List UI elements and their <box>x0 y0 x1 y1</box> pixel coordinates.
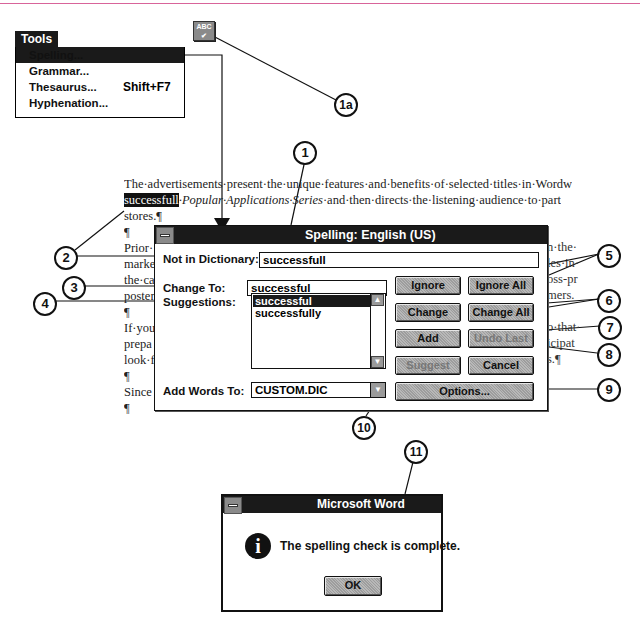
icon-text: ABC <box>196 23 211 30</box>
ok-button[interactable]: OK <box>324 576 382 596</box>
callout-8: 8 <box>597 343 621 367</box>
doc-fragment: n·the· <box>547 240 577 255</box>
add-words-to-select[interactable]: CUSTOM.DIC ▼ <box>251 382 386 398</box>
callout-11: 11 <box>404 440 428 464</box>
menu-item-shortcut: Shift+F7 <box>123 79 171 95</box>
scroll-up-icon[interactable]: ▲ <box>371 294 384 306</box>
doc-fragment: poster <box>124 288 155 304</box>
message-box: Microsoft Word i The spelling check is c… <box>221 494 443 612</box>
callout-3: 3 <box>62 276 86 300</box>
doc-fragment: Since <box>124 384 152 400</box>
doc-fragment: s.¶ <box>547 352 561 367</box>
menu-item-label: Hyphenation... <box>29 95 108 111</box>
menu-item-spelling[interactable]: Spelling... <box>16 47 184 63</box>
callout-1: 1 <box>293 141 317 165</box>
add-words-to-value: CUSTOM.DIC <box>255 384 328 396</box>
spelling-toolbar-button[interactable]: ABC✔ <box>193 21 215 41</box>
dialog-title: Spelling: English (US) <box>305 226 436 244</box>
suggest-button[interactable]: Suggest <box>395 356 461 375</box>
callout-7: 7 <box>598 316 622 340</box>
doc-fragment: ¶ <box>124 400 130 416</box>
callout-5: 5 <box>597 244 621 268</box>
suggestions-label: Suggestions: <box>163 296 236 308</box>
callout-2: 2 <box>54 246 78 270</box>
menu-item-label: Spelling... <box>29 47 83 63</box>
ignore-button[interactable]: Ignore <box>395 276 461 295</box>
doc-fragment: prepa <box>124 336 152 352</box>
italic-title: ·Popular·Applications·Series <box>179 193 323 207</box>
change-all-button[interactable]: Change All <box>468 303 534 322</box>
suggestions-scrollbar[interactable]: ▲ ▼ <box>370 294 385 368</box>
message-text: The spelling check is complete. <box>280 539 460 553</box>
not-in-dictionary-field: successfull <box>259 252 539 268</box>
doc-fragment: les·in· <box>547 256 579 271</box>
page-top-rule <box>0 3 640 4</box>
menu-item-label: Thesaurus... <box>29 79 97 95</box>
callout-6: 6 <box>597 289 621 313</box>
menu-item-thesaurus[interactable]: Thesaurus...Shift+F7 <box>16 79 184 95</box>
doc-line-2: successfull·Popular·Applications·Series·… <box>124 192 561 208</box>
options-button[interactable]: Options... <box>395 382 534 401</box>
doc-fragment: mers. <box>547 288 574 303</box>
ignore-all-button[interactable]: Ignore All <box>468 276 534 295</box>
doc-fragment: o·that· <box>547 320 580 335</box>
doc-fragment: look·f <box>124 352 155 368</box>
doc-line-4: ¶ <box>124 224 130 240</box>
misspelled-word: successfull <box>124 193 179 207</box>
callout-9: 9 <box>597 378 621 402</box>
undo-last-button[interactable]: Undo Last <box>468 329 534 348</box>
menu-item-grammar[interactable]: Grammar... <box>16 63 184 79</box>
chevron-down-icon[interactable]: ▼ <box>370 383 385 397</box>
doc-fragment: icipat <box>547 336 575 351</box>
suggestion-item[interactable]: successfully <box>253 307 371 319</box>
callout-10: 10 <box>352 416 376 440</box>
doc-fragment: marke <box>124 256 155 272</box>
menu-item-label: Grammar... <box>29 63 89 79</box>
scroll-down-icon[interactable]: ▼ <box>371 356 384 368</box>
doc-line-3: stores.¶ <box>124 208 162 224</box>
doc-line-1: The·advertisements·present·the·unique·fe… <box>124 176 572 192</box>
add-button[interactable]: Add <box>395 329 461 348</box>
doc-line-2-rest: ·and·then·directs·the·listening·audience… <box>323 193 561 207</box>
callout-4: 4 <box>33 292 57 316</box>
message-box-titlebar[interactable]: Microsoft Word <box>223 496 441 513</box>
doc-fragment: ¶ <box>124 304 130 320</box>
doc-fragment: ¶ <box>124 368 130 384</box>
menu-item-hyphenation[interactable]: Hyphenation... <box>16 95 184 111</box>
change-to-label: Change To: <box>163 282 225 294</box>
doc-fragment: If·you <box>124 320 155 336</box>
tools-menu: Spelling... Grammar... Thesaurus...Shift… <box>15 47 185 118</box>
cancel-button[interactable]: Cancel <box>468 356 534 375</box>
change-button[interactable]: Change <box>395 303 461 322</box>
tools-menu-title[interactable]: Tools <box>15 31 58 47</box>
abc-check-icon: ABC✔ <box>196 23 211 39</box>
doc-fragment: oss-pr <box>547 272 578 287</box>
information-icon: i <box>245 533 271 559</box>
message-box-title: Microsoft Word <box>317 496 405 513</box>
system-menu-icon[interactable] <box>156 227 174 244</box>
add-words-to-label: Add Words To: <box>163 385 244 397</box>
not-in-dictionary-label: Not in Dictionary: <box>163 253 259 265</box>
doc-fragment: the·ca <box>124 272 155 288</box>
spelling-dialog: Spelling: English (US) Not in Dictionary… <box>154 225 548 411</box>
tools-menu-label: Tools <box>21 32 52 46</box>
suggestion-item[interactable]: successful <box>253 295 371 307</box>
system-menu-icon[interactable] <box>224 497 242 514</box>
spelling-dialog-titlebar[interactable]: Spelling: English (US) <box>155 226 547 244</box>
suggestions-list[interactable]: successful successfully ▲ ▼ <box>251 293 386 369</box>
callout-1a: 1a <box>334 93 358 117</box>
doc-fragment: Prior· <box>124 240 153 256</box>
